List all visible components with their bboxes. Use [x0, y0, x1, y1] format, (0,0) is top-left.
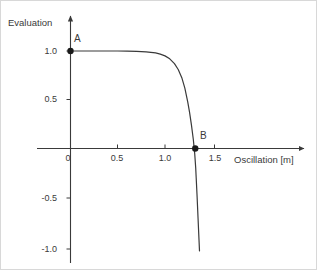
x-tick-label-3: 1.0 — [150, 154, 180, 163]
data-point-b-label: B — [200, 131, 207, 141]
data-point-a — [67, 48, 73, 54]
evaluation-curve — [71, 51, 200, 251]
x-tick-label-2: 0.5 — [102, 154, 132, 163]
x-axis-title: Oscillation [m] — [234, 155, 294, 165]
chart-figure: Evaluation Oscillation [m] A B 1.0 0.5 -… — [0, 0, 317, 270]
x-axis-ticks — [118, 145, 215, 149]
plot-area — [1, 1, 317, 270]
data-point-a-label: A — [74, 34, 81, 44]
y-tick-label-3: -0.5 — [23, 194, 57, 203]
x-tick-label-1: 0 — [53, 154, 83, 163]
y-axis-ticks — [67, 51, 71, 249]
y-axis-title: Evaluation — [8, 18, 52, 28]
data-point-b — [192, 145, 198, 151]
y-tick-label-4: -1.0 — [23, 245, 57, 254]
y-tick-label-1: 1.0 — [23, 47, 57, 56]
y-tick-label-2: 0.5 — [23, 95, 57, 104]
x-tick-label-4: 1.5 — [200, 154, 230, 163]
